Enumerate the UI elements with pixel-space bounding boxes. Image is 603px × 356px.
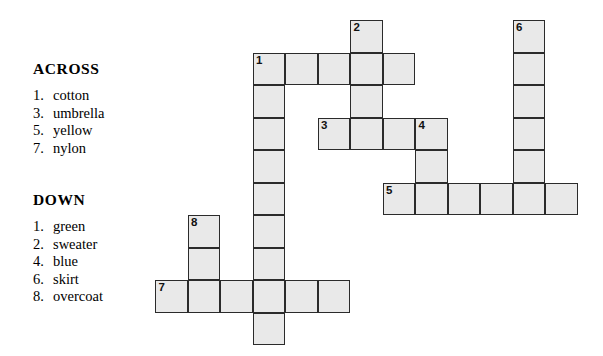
grid-cell[interactable]: [253, 85, 286, 118]
grid-cell[interactable]: [513, 53, 546, 86]
grid-cell-numbered[interactable]: 7: [155, 280, 188, 313]
grid-cell[interactable]: [545, 183, 578, 216]
grid-cell[interactable]: [188, 248, 221, 281]
grid-cell[interactable]: [253, 150, 286, 183]
grid-cell-numbered[interactable]: 5: [383, 183, 416, 216]
grid-cell[interactable]: [253, 118, 286, 151]
grid-cell[interactable]: [253, 248, 286, 281]
grid-cell[interactable]: [253, 280, 286, 313]
grid-cell-numbered[interactable]: 1: [253, 53, 286, 86]
grid-cell[interactable]: [318, 280, 351, 313]
grid-cell-number: 5: [386, 184, 392, 197]
grid-cell[interactable]: [285, 53, 318, 86]
grid-cell-numbered[interactable]: 4: [415, 118, 448, 151]
grid-cell[interactable]: [220, 280, 253, 313]
grid-cell[interactable]: [513, 150, 546, 183]
grid-cell[interactable]: [253, 215, 286, 248]
grid-cell[interactable]: [448, 183, 481, 216]
grid-cell[interactable]: [513, 183, 546, 216]
grid-cell[interactable]: [285, 280, 318, 313]
grid-cell[interactable]: [350, 85, 383, 118]
grid-cell-numbered[interactable]: 2: [350, 20, 383, 53]
grid-cell[interactable]: [513, 85, 546, 118]
grid-cell-numbered[interactable]: 8: [188, 215, 221, 248]
grid-cell[interactable]: [383, 118, 416, 151]
grid-cell[interactable]: [188, 280, 221, 313]
grid-cell-number: 8: [191, 216, 197, 229]
grid-cell[interactable]: [253, 313, 286, 346]
grid-cell-numbered[interactable]: 6: [513, 20, 546, 53]
grid-cell[interactable]: [350, 118, 383, 151]
grid-cell[interactable]: [253, 183, 286, 216]
grid-cell-number: 4: [419, 119, 425, 132]
grid-cell[interactable]: [383, 53, 416, 86]
grid-cell-number: 1: [256, 54, 262, 67]
crossword-page: ACROSS 1.cotton3.umbrella5.yellow7.nylon…: [0, 0, 603, 356]
grid-cell[interactable]: [350, 53, 383, 86]
grid-cell[interactable]: [480, 183, 513, 216]
grid-cell[interactable]: [318, 53, 351, 86]
grid-cell[interactable]: [513, 118, 546, 151]
grid-cell-number: 7: [159, 281, 165, 294]
grid-cell[interactable]: [415, 150, 448, 183]
crossword-grid[interactable]: 26134587: [0, 0, 603, 356]
grid-cell-number: 2: [354, 21, 360, 34]
grid-cell-numbered[interactable]: 3: [318, 118, 351, 151]
grid-cell[interactable]: [415, 183, 448, 216]
grid-cell-number: 6: [516, 21, 522, 34]
grid-cell-number: 3: [321, 119, 327, 132]
